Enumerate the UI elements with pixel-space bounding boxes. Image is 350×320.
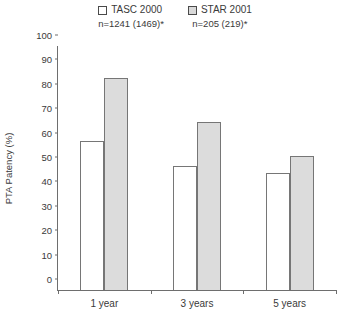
x-axis-label: 5 years (273, 298, 306, 309)
y-axis-tick: 80 (41, 78, 58, 89)
y-axis-tick: 20 (41, 225, 58, 236)
y-axis-tick-label: 100 (36, 30, 55, 41)
y-axis-tick: 50 (41, 152, 58, 163)
legend-label-tasc: TASC 2000 (111, 4, 162, 17)
y-axis-tick-label: 70 (41, 103, 55, 114)
legend-label-star: STAR 2001 (201, 4, 252, 17)
y-axis-tick-label: 50 (41, 152, 55, 163)
x-axis-tick-mark (336, 290, 337, 294)
y-axis-tick-label: 90 (41, 54, 55, 65)
y-axis-tick-label: 60 (41, 127, 55, 138)
plot-area: 0102030405060708090100 1 year3 years5 ye… (57, 46, 336, 291)
white-square-icon (98, 6, 107, 15)
x-axis-tick-mark (243, 290, 244, 294)
y-axis-tick: 60 (41, 127, 58, 138)
legend-entry-star: STAR 2001 n=205 (219)* (188, 4, 252, 29)
bar (266, 173, 290, 290)
bar (173, 166, 197, 290)
y-axis-tick: 100 (36, 30, 58, 41)
x-axis-label: 3 years (181, 298, 214, 309)
legend-top-star: STAR 2001 (188, 4, 252, 17)
y-axis-tick-mark (55, 35, 58, 36)
y-axis-title: PTA Patency (%) (2, 46, 16, 291)
bar-chart: TASC 2000 n=1241 (1469)* STAR 2001 n=205… (0, 0, 350, 320)
y-axis-tick: 40 (41, 176, 58, 187)
legend-entry-tasc: TASC 2000 n=1241 (1469)* (98, 4, 164, 29)
y-axis-tick-label: 80 (41, 78, 55, 89)
bar (80, 141, 104, 290)
y-axis-tick-label: 20 (41, 225, 55, 236)
bar (290, 156, 314, 290)
y-axis-tick: 90 (41, 54, 58, 65)
y-axis-title-text: PTA Patency (%) (4, 133, 15, 205)
x-axis-label: 1 year (90, 298, 118, 309)
y-axis-tick: 30 (41, 200, 58, 211)
y-axis-tick-label: 0 (47, 274, 55, 285)
legend-top-tasc: TASC 2000 (98, 4, 162, 17)
legend-n-star: n=205 (219)* (192, 18, 247, 30)
y-axis-tick-label: 10 (41, 249, 55, 260)
y-axis-tick: 70 (41, 103, 58, 114)
y-axis-tick: 10 (41, 249, 58, 260)
bar (197, 122, 221, 290)
chart-legend: TASC 2000 n=1241 (1469)* STAR 2001 n=205… (0, 4, 350, 29)
legend-n-tasc: n=1241 (1469)* (98, 18, 164, 30)
bars-group (58, 46, 336, 290)
y-axis-tick-label: 40 (41, 176, 55, 187)
x-axis-tick-mark (151, 290, 152, 294)
y-axis-tick-label: 30 (41, 200, 55, 211)
y-axis-tick: 0 (47, 274, 58, 285)
x-axis-tick-mark (58, 290, 59, 294)
bar (104, 78, 128, 290)
gray-square-icon (188, 6, 197, 15)
